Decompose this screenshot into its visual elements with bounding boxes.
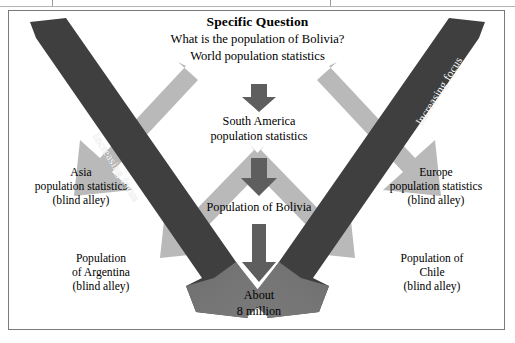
center-arrow-1 (242, 84, 276, 112)
specific-question-text: What is the population of Bolivia? (0, 32, 515, 47)
branch-chile-line3: (blind alley) (366, 280, 498, 294)
figure-title: Specific Question (0, 14, 515, 30)
branch-argentina-line1: Population (36, 252, 166, 266)
branch-chile-line1: Population of (366, 252, 498, 266)
center-node-south-america-line1: South America (164, 114, 354, 128)
center-node-population-bolivia: Population of Bolivia (164, 200, 354, 214)
answer-label-line1: About (194, 288, 324, 302)
branch-europe-line1: Europe (362, 166, 510, 180)
branch-argentina-line3: (blind alley) (36, 280, 166, 294)
center-node-south-america-line2: population statistics (164, 129, 354, 143)
branch-europe-line3: (blind alley) (362, 194, 510, 208)
diagram-figure: Specific Question What is the population… (0, 0, 515, 343)
answer-label-line2: 8 million (194, 304, 324, 318)
branch-asia-line1: Asia (8, 166, 154, 180)
root-node-label: World population statistics (0, 49, 515, 64)
branch-europe-line2: population statistics (362, 180, 510, 194)
branch-chile-line2: Chile (366, 266, 498, 280)
branch-argentina-line2: of Argentina (36, 266, 166, 280)
